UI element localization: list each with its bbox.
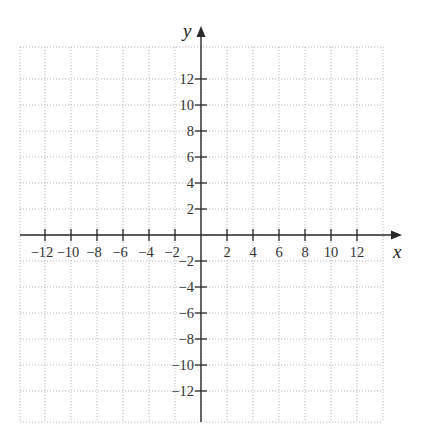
- y-tick-label: 10: [180, 97, 195, 113]
- y-tick-label: −10: [171, 357, 194, 373]
- x-axis-arrow-icon: [391, 231, 402, 240]
- x-tick-label: −12: [31, 244, 54, 260]
- y-tick-label: 6: [187, 149, 194, 165]
- y-tick-label: −8: [179, 331, 194, 347]
- y-tick-label: −2: [179, 253, 194, 269]
- x-tick-label: −8: [86, 244, 101, 260]
- x-tick-label: 10: [324, 244, 339, 260]
- axes: [20, 26, 402, 422]
- y-tick-label: 12: [180, 71, 195, 87]
- x-tick-label: −10: [57, 244, 80, 260]
- y-axis-label: y: [181, 20, 192, 41]
- x-tick-label: −2: [164, 244, 179, 260]
- x-tick-label: 6: [275, 244, 282, 260]
- x-tick-label: −6: [112, 244, 127, 260]
- x-axis-ticks: −12−10−8−6−4−224681012: [31, 229, 365, 260]
- x-tick-label: −4: [138, 244, 154, 260]
- x-tick-label: 4: [249, 244, 257, 260]
- coordinate-plane: −12−10−8−6−4−224681012 −12−10−8−6−4−2246…: [0, 0, 424, 444]
- y-tick-label: 8: [187, 123, 194, 139]
- x-tick-label: 8: [301, 244, 308, 260]
- y-tick-label: −4: [179, 279, 195, 295]
- x-tick-label: 12: [350, 244, 365, 260]
- y-tick-label: −6: [179, 305, 194, 321]
- y-tick-label: 2: [187, 201, 194, 217]
- y-tick-label: 4: [187, 175, 195, 191]
- y-axis-arrow-icon: [197, 26, 206, 37]
- y-tick-label: −12: [171, 383, 194, 399]
- x-axis-label: x: [392, 241, 402, 262]
- x-tick-label: 2: [223, 244, 230, 260]
